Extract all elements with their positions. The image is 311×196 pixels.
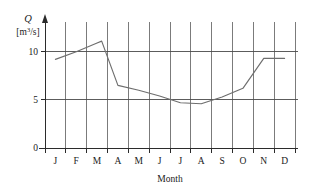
month-label-december: D (281, 156, 288, 166)
y-axis-arrow-icon (42, 14, 48, 23)
y-axis-unit-label: [m3/s] (16, 26, 39, 38)
month-label-august: A (198, 156, 205, 166)
month-label-february: F (74, 156, 79, 166)
horizontal-value-lines (45, 52, 298, 100)
y-tick-label-10: 10 (29, 47, 39, 57)
month-label-january: J (54, 156, 58, 166)
month-label-october: O (239, 156, 246, 166)
y-unit-base: [m (16, 27, 27, 37)
plot-frame (39, 14, 298, 148)
y-tick-label-5: 5 (33, 95, 38, 105)
month-label-june: J (158, 156, 162, 166)
x-axis-title: Month (157, 174, 183, 184)
y-unit-tail: /s] (30, 27, 40, 37)
chart-container: 0510 JFMAMJJASOND Q [m3/s] Month (0, 0, 311, 196)
month-label-july: J (179, 156, 183, 166)
y-axis-tick-labels: 0510 (29, 47, 39, 153)
month-label-march: M (93, 156, 102, 166)
month-label-september: S (219, 156, 224, 166)
y-axis-ticks (41, 52, 45, 100)
discharge-line-chart: 0510 JFMAMJJASOND Q [m3/s] Month (0, 0, 311, 196)
month-label-may: M (135, 156, 144, 166)
x-axis-ticks (45, 148, 295, 153)
y-tick-label-0: 0 (33, 143, 38, 153)
month-label-april: A (114, 156, 121, 166)
month-label-november: N (260, 156, 267, 166)
y-axis-title: Q (24, 13, 32, 24)
vertical-gridlines (66, 22, 295, 148)
x-axis-month-labels: JFMAMJJASOND (54, 156, 289, 166)
